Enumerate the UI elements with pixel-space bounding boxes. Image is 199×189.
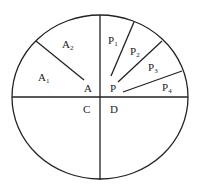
p-segment-3 (123, 71, 182, 92)
circle-partition-diagram: A1 A2 A P P1 P2 P3 P4 C D (0, 0, 199, 189)
p-segment-2 (118, 41, 162, 82)
label-a1: A1 (38, 71, 50, 85)
label-p1: P1 (108, 34, 118, 48)
label-p2: P2 (130, 45, 140, 59)
label-a2: A2 (62, 38, 74, 52)
label-a: A (84, 82, 92, 94)
label-p4: P4 (162, 81, 172, 95)
label-p: P (110, 82, 116, 94)
label-c: C (83, 103, 90, 115)
label-p3: P3 (148, 61, 158, 75)
label-d: D (110, 103, 118, 115)
